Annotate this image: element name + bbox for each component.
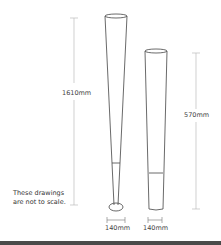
- tall-height-dimension: [70, 18, 78, 205]
- scale-note-line2: are not to scale.: [13, 198, 66, 207]
- base-width-dimensions: [107, 217, 162, 223]
- tall-height-label: 1610mm: [62, 89, 91, 97]
- scale-note-line1: These drawings: [13, 189, 66, 198]
- short-height-dimension: [192, 53, 200, 209]
- tall-vase: [105, 14, 127, 211]
- short-vase: [145, 49, 167, 210]
- bottom-divider: [0, 241, 221, 245]
- tall-base-label: 140mm: [105, 224, 130, 232]
- short-height-label: 570mm: [184, 111, 209, 119]
- scale-note: These drawings are not to scale.: [13, 189, 66, 207]
- short-base-label: 140mm: [143, 224, 168, 232]
- dimension-drawing: [0, 0, 221, 245]
